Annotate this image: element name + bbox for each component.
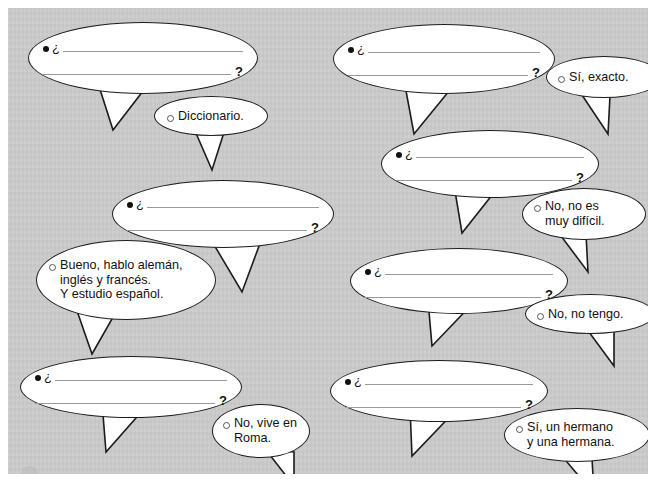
question-mark: ? bbox=[219, 394, 227, 407]
answer-content: Diccionario. bbox=[167, 109, 255, 124]
question-line-1: ¿ bbox=[127, 195, 319, 211]
question-line-1: ¿ bbox=[43, 39, 243, 55]
blank-rule bbox=[35, 402, 215, 404]
hollow-circle-icon bbox=[516, 426, 523, 433]
blank-rule bbox=[368, 51, 540, 53]
answer-text: Bueno, hablo alemán, inglés y francés. Y… bbox=[60, 258, 183, 303]
question-line-2: ? bbox=[43, 62, 243, 78]
blank-rule bbox=[396, 179, 572, 181]
blank-rule bbox=[345, 406, 521, 408]
blank-rule bbox=[385, 273, 553, 275]
inverted-question-mark: ¿ bbox=[354, 374, 362, 387]
answer-text: No, vive en Roma. bbox=[234, 416, 297, 446]
answer-bubble-1[interactable]: Diccionario. bbox=[154, 96, 268, 136]
answer-text: Sí, un hermano y una hermana. bbox=[527, 420, 615, 450]
hollow-circle-icon bbox=[49, 264, 56, 271]
blank-rule bbox=[365, 296, 541, 298]
hollow-circle-icon bbox=[167, 115, 174, 122]
filled-dot-icon bbox=[43, 46, 49, 52]
answer-bubble-4[interactable]: Bueno, hablo alemán, inglés y francés. Y… bbox=[36, 240, 216, 320]
inverted-question-mark: ¿ bbox=[52, 41, 60, 54]
filled-dot-icon bbox=[127, 202, 133, 208]
answer-content: No, no es muy difícil. bbox=[534, 199, 634, 229]
answer-text: No, no tengo. bbox=[548, 307, 624, 322]
filled-dot-icon bbox=[396, 152, 402, 158]
answer-content: No, no tengo. bbox=[537, 307, 643, 322]
printed-sheet: ¿ ? Diccionario. bbox=[8, 8, 648, 474]
question-line-2: ? bbox=[345, 395, 533, 411]
filled-dot-icon bbox=[345, 379, 351, 385]
question-mark: ? bbox=[576, 171, 584, 184]
question-bubble-4[interactable]: ¿ ? bbox=[112, 180, 334, 248]
blank-rule bbox=[348, 74, 528, 76]
question-line-2: ? bbox=[127, 218, 319, 234]
blank-rule bbox=[127, 229, 307, 231]
inverted-question-mark: ¿ bbox=[44, 370, 52, 383]
question-line-1: ¿ bbox=[348, 40, 540, 56]
question-mark: ? bbox=[525, 398, 533, 411]
question-line-2: ? bbox=[35, 391, 227, 407]
answer-bubble-2[interactable]: Sí, exacto. bbox=[546, 56, 648, 98]
question-bubble-7[interactable]: ¿ ? bbox=[330, 360, 548, 422]
question-line-2: ? bbox=[365, 285, 553, 301]
blank-rule bbox=[416, 156, 584, 158]
answer-text: Sí, exacto. bbox=[569, 70, 629, 85]
question-line-1: ¿ bbox=[396, 145, 584, 161]
question-line-1: ¿ bbox=[345, 372, 533, 388]
hollow-circle-icon bbox=[558, 76, 565, 83]
filled-dot-icon bbox=[35, 375, 41, 381]
question-bubble-3[interactable]: ¿ ? bbox=[381, 130, 599, 198]
filled-dot-icon bbox=[348, 47, 354, 53]
hollow-circle-icon bbox=[534, 205, 541, 212]
answer-content: Sí, un hermano y una hermana. bbox=[516, 420, 638, 450]
blank-rule bbox=[55, 379, 227, 381]
inverted-question-mark: ¿ bbox=[357, 42, 365, 55]
inverted-question-mark: ¿ bbox=[374, 264, 382, 277]
question-line-1: ¿ bbox=[35, 368, 227, 384]
question-line-1: ¿ bbox=[365, 262, 553, 278]
answer-text: No, no es muy difícil. bbox=[545, 199, 604, 229]
answer-bubble-7[interactable]: Sí, un hermano y una hermana. bbox=[504, 408, 648, 462]
answer-bubble-5[interactable]: No, no tengo. bbox=[525, 294, 648, 334]
blank-rule bbox=[147, 206, 319, 208]
question-line-2: ? bbox=[348, 63, 540, 79]
answer-bubble-3[interactable]: No, no es muy difícil. bbox=[522, 188, 646, 240]
question-bubble-2[interactable]: ¿ ? bbox=[333, 24, 555, 94]
hollow-circle-icon bbox=[223, 422, 230, 429]
question-mark: ? bbox=[532, 66, 540, 79]
answer-content: Sí, exacto. bbox=[558, 70, 648, 85]
answer-content: No, vive en Roma. bbox=[223, 416, 299, 446]
question-mark: ? bbox=[311, 221, 319, 234]
answer-text: Diccionario. bbox=[178, 109, 244, 124]
worksheet-page: ¿ ? Diccionario. bbox=[0, 0, 657, 482]
blank-rule bbox=[63, 50, 243, 52]
inverted-question-mark: ¿ bbox=[136, 197, 144, 210]
question-bubble-1[interactable]: ¿ ? bbox=[28, 22, 258, 94]
question-line-2: ? bbox=[396, 168, 584, 184]
inverted-question-mark: ¿ bbox=[405, 147, 413, 160]
question-mark: ? bbox=[235, 65, 243, 78]
blank-rule bbox=[365, 383, 533, 385]
blank-rule bbox=[43, 73, 231, 75]
filled-dot-icon bbox=[365, 269, 371, 275]
question-bubble-6[interactable]: ¿ ? bbox=[20, 356, 242, 418]
hollow-circle-icon bbox=[537, 313, 544, 320]
exercise-number-circle bbox=[21, 466, 38, 474]
answer-content: Bueno, hablo alemán, inglés y francés. Y… bbox=[49, 258, 203, 303]
answer-bubble-6[interactable]: No, vive en Roma. bbox=[212, 404, 310, 458]
